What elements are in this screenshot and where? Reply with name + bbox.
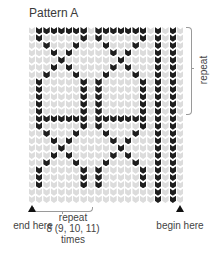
- stitch-cell: [87, 27, 94, 34]
- stitch-cell: [65, 34, 72, 41]
- stitch-cell: [139, 181, 146, 188]
- stitch-cell: [35, 122, 42, 129]
- stitch-cell: [95, 56, 102, 63]
- stitch-cell: [73, 49, 80, 56]
- stitch-cell: [80, 64, 87, 71]
- stitch-cell: [132, 42, 139, 49]
- stitch-cell: [169, 152, 176, 159]
- stitch-cell: [58, 144, 65, 151]
- stitch-cell: [102, 86, 109, 93]
- stitch-cell: [132, 86, 139, 93]
- stitch-cell: [28, 174, 35, 181]
- stitch-cell: [35, 181, 42, 188]
- stitch-cell: [162, 100, 169, 107]
- stitch-cell: [73, 181, 80, 188]
- stitch-cell: [139, 64, 146, 71]
- stitch-cell: [162, 42, 169, 49]
- stitch-cell: [73, 78, 80, 85]
- stitch-cell: [73, 27, 80, 34]
- stitch-cell: [65, 152, 72, 159]
- stitch-cell: [73, 115, 80, 122]
- stitch-cell: [162, 27, 169, 34]
- stitch-cell: [177, 188, 184, 195]
- stitch-cell: [154, 181, 161, 188]
- stitch-cell: [65, 78, 72, 85]
- stitch-cell: [50, 181, 57, 188]
- stitch-cell: [154, 108, 161, 115]
- stitch-cell: [147, 108, 154, 115]
- stitch-cell: [177, 122, 184, 129]
- stitch-cell: [169, 115, 176, 122]
- stitch-cell: [58, 49, 65, 56]
- stitch-cell: [73, 174, 80, 181]
- stitch-cell: [65, 100, 72, 107]
- stitch-cell: [28, 42, 35, 49]
- stitch-cell: [147, 34, 154, 41]
- stitch-cell: [117, 42, 124, 49]
- stitch-cell: [110, 122, 117, 129]
- stitch-cell: [117, 49, 124, 56]
- stitch-cell: [35, 159, 42, 166]
- stitch-cell: [95, 34, 102, 41]
- column-repeat-line2: 8 (9, 10, 11): [42, 223, 104, 234]
- stitch-cell: [139, 188, 146, 195]
- stitch-cell: [154, 130, 161, 137]
- stitch-cell: [28, 108, 35, 115]
- stitch-cell: [50, 122, 57, 129]
- stitch-cell: [87, 174, 94, 181]
- stitch-cell: [169, 78, 176, 85]
- stitch-cell: [154, 100, 161, 107]
- stitch-cell: [132, 144, 139, 151]
- stitch-cell: [35, 166, 42, 173]
- stitch-cell: [35, 188, 42, 195]
- stitch-cell: [65, 49, 72, 56]
- stitch-cell: [125, 137, 132, 144]
- stitch-cell: [95, 71, 102, 78]
- stitch-cell: [35, 27, 42, 34]
- stitch-cell: [73, 130, 80, 137]
- stitch-cell: [177, 64, 184, 71]
- knitting-chart-grid: [28, 27, 184, 203]
- stitch-cell: [139, 86, 146, 93]
- stitch-cell: [50, 100, 57, 107]
- stitch-cell: [132, 34, 139, 41]
- stitch-cell: [28, 159, 35, 166]
- stitch-cell: [35, 49, 42, 56]
- stitch-cell: [117, 130, 124, 137]
- stitch-cell: [177, 86, 184, 93]
- stitch-cell: [43, 86, 50, 93]
- stitch-cell: [50, 166, 57, 173]
- stitch-cell: [50, 130, 57, 137]
- stitch-cell: [102, 166, 109, 173]
- stitch-cell: [102, 27, 109, 34]
- stitch-cell: [132, 78, 139, 85]
- stitch-cell: [110, 174, 117, 181]
- stitch-cell: [58, 78, 65, 85]
- stitch-cell: [58, 196, 65, 203]
- stitch-cell: [102, 152, 109, 159]
- stitch-cell: [177, 71, 184, 78]
- stitch-cell: [28, 64, 35, 71]
- stitch-cell: [132, 174, 139, 181]
- stitch-cell: [95, 42, 102, 49]
- stitch-cell: [110, 159, 117, 166]
- stitch-cell: [102, 130, 109, 137]
- stitch-cell: [169, 181, 176, 188]
- stitch-cell: [125, 181, 132, 188]
- stitch-cell: [28, 196, 35, 203]
- stitch-cell: [125, 152, 132, 159]
- stitch-cell: [35, 64, 42, 71]
- stitch-cell: [102, 49, 109, 56]
- stitch-cell: [177, 152, 184, 159]
- stitch-cell: [58, 152, 65, 159]
- stitch-cell: [169, 196, 176, 203]
- stitch-cell: [43, 159, 50, 166]
- stitch-cell: [177, 34, 184, 41]
- stitch-cell: [117, 122, 124, 129]
- stitch-cell: [147, 42, 154, 49]
- stitch-cell: [154, 152, 161, 159]
- stitch-cell: [35, 78, 42, 85]
- stitch-cell: [132, 100, 139, 107]
- stitch-cell: [132, 64, 139, 71]
- stitch-cell: [154, 27, 161, 34]
